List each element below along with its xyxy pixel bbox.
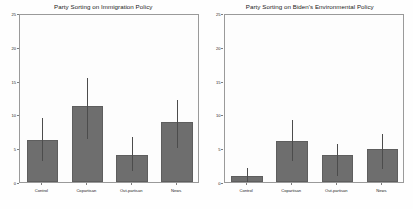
y-tick-label: 5 — [209, 147, 221, 152]
y-tick-label: 20 — [4, 45, 16, 50]
y-tick-label: 25 — [209, 12, 221, 17]
error-bar — [337, 144, 338, 176]
x-tick-label: Copartisan — [281, 188, 301, 193]
x-tick-label: News — [171, 188, 181, 193]
y-tick-mark — [17, 14, 19, 15]
error-bar — [87, 78, 88, 139]
bars-group-environment — [225, 15, 404, 182]
y-tick-label: 5 — [4, 147, 16, 152]
y-tick-mark — [221, 48, 223, 49]
y-tick-mark — [17, 115, 19, 116]
y-tick-mark — [17, 183, 19, 184]
y-tick-mark — [221, 149, 223, 150]
x-tick-mark — [131, 183, 132, 185]
y-tick-label: 15 — [4, 79, 16, 84]
y-tick-label: 0 — [4, 181, 16, 186]
y-tick-mark — [17, 48, 19, 49]
x-tick-mark — [381, 183, 382, 185]
error-bar — [247, 168, 248, 182]
x-tick-label: Control — [239, 188, 252, 193]
y-tick-mark — [221, 82, 223, 83]
y-tick-label: 10 — [209, 113, 221, 118]
error-bar — [42, 118, 43, 161]
axes-frame — [19, 14, 199, 183]
y-tick-label: 10 — [4, 113, 16, 118]
y-tick-label: 0 — [209, 181, 221, 186]
x-tick-label: News — [376, 188, 386, 193]
x-tick-label: Out-partisan — [325, 188, 348, 193]
x-tick-mark — [41, 183, 42, 185]
x-tick-mark — [86, 183, 87, 185]
error-bar — [177, 100, 178, 148]
figure-dual-bar-charts: Party Sorting on Immigration Policy Perc… — [0, 0, 413, 209]
y-tick-mark — [221, 183, 223, 184]
x-tick-label: Control — [35, 188, 48, 193]
x-tick-mark — [291, 183, 292, 185]
chart-panel-environment: Party Sorting on Biden's Environmental P… — [207, 0, 413, 209]
y-tick-mark — [17, 149, 19, 150]
bars-group-immigration — [20, 15, 198, 182]
plot-area-environment: 0510152025 ControlCopartisanOut-partisan… — [207, 0, 413, 209]
error-bar — [382, 134, 383, 169]
y-tick-mark — [221, 14, 223, 15]
chart-panel-immigration: Party Sorting on Immigration Policy Perc… — [0, 0, 207, 209]
y-tick-label: 15 — [209, 79, 221, 84]
error-bar — [292, 120, 293, 161]
x-tick-mark — [246, 183, 247, 185]
x-tick-label: Copartisan — [76, 188, 96, 193]
error-bar — [132, 137, 133, 171]
y-tick-mark — [221, 115, 223, 116]
x-tick-mark — [336, 183, 337, 185]
y-tick-label: 25 — [4, 12, 16, 17]
y-tick-label: 20 — [209, 45, 221, 50]
x-tick-label: Out-partisan — [120, 188, 143, 193]
y-tick-mark — [17, 82, 19, 83]
axes-frame — [224, 14, 405, 183]
plot-area-immigration: 0510152025 ControlCopartisanOut-partisan… — [0, 0, 207, 209]
x-tick-mark — [176, 183, 177, 185]
